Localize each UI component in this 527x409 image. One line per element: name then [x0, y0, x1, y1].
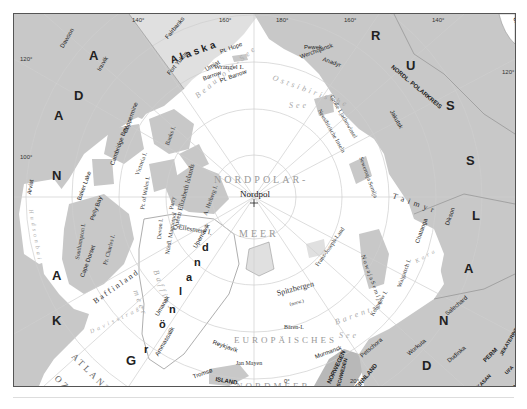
degree-label: 0°: [284, 378, 290, 384]
country-letter: R: [371, 29, 380, 42]
country-letter: D: [422, 359, 431, 372]
sea-label-europ: EUROPÄISCHES: [234, 336, 337, 345]
island-baeren: Bären-I.: [284, 324, 304, 330]
degree-label: 140°: [132, 17, 144, 23]
degree-label: 100°: [20, 154, 32, 160]
country-letter: A: [52, 269, 61, 282]
country-letter: D: [74, 89, 83, 102]
north-pole-label: Nordpol: [240, 190, 270, 199]
sea-label-meer: MEER: [239, 229, 279, 239]
country-letter: S: [446, 99, 455, 112]
arctic-map: Nordpol NORDPOLAR- MEER EUROPÄISCHES NOR…: [13, 13, 516, 387]
degree-label: 180°: [276, 17, 288, 23]
country-letter: r: [144, 344, 148, 355]
country-letter: d: [202, 242, 209, 253]
island-jan-mayen: Jan Mayen: [236, 360, 262, 366]
degree-label: 120°: [502, 69, 514, 75]
degree-label: 20°: [350, 378, 359, 384]
country-letter: a: [186, 272, 192, 283]
sea-label-barents-see: See: [339, 332, 359, 340]
country-letter: L: [472, 209, 480, 222]
city-pewek: Pewek: [304, 44, 322, 50]
country-letter: N: [52, 169, 61, 182]
country-letter: G: [126, 354, 136, 367]
country-letter: A: [89, 49, 98, 62]
degree-label: 160°: [344, 17, 356, 23]
country-letter: ö: [159, 319, 166, 330]
country-letter: A: [54, 109, 63, 122]
country-letter: n: [169, 304, 176, 315]
country-letter: n: [194, 257, 201, 268]
divider: [13, 397, 514, 398]
country-letter: l: [179, 286, 182, 297]
country-letter: U: [406, 59, 415, 72]
country-letter: S: [466, 154, 475, 167]
country-letter: A: [464, 262, 473, 275]
sea-label-nordmeer: NORDMEER: [236, 382, 311, 387]
degree-label: 140°: [432, 17, 444, 23]
sea-label-nordpolar: NORDPOLAR-: [214, 175, 308, 185]
degree-label: 160°: [219, 17, 231, 23]
sea-label-ostsib-see: See: [289, 102, 309, 110]
degree-label: 120°: [20, 56, 32, 62]
country-letter: K: [52, 314, 61, 327]
